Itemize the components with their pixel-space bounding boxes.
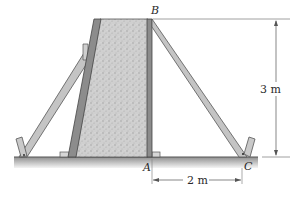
point-b-label: B xyxy=(150,4,159,17)
formwork-diagram: 3 m 2 m B A C xyxy=(0,0,304,198)
point-c-label: C xyxy=(244,160,253,173)
right-form-panel xyxy=(147,19,152,157)
dimension-height: 3 m xyxy=(153,19,294,157)
height-dimension-label: 3 m xyxy=(260,83,281,96)
point-a-label: A xyxy=(142,161,151,174)
horizontal-dimension-label: 2 m xyxy=(187,174,208,187)
ground xyxy=(14,157,258,168)
right-strut-bc xyxy=(152,19,247,157)
left-foot-block xyxy=(60,152,69,157)
right-stake xyxy=(242,137,255,157)
right-foot-block xyxy=(152,152,160,157)
